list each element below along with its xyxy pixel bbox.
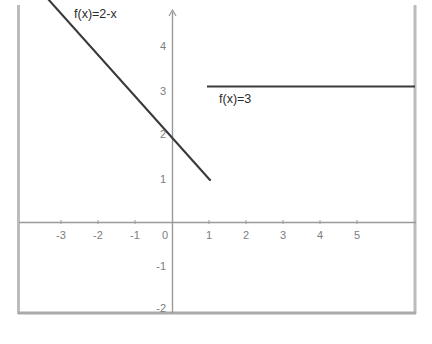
curve-f-of-x-2-minus-x [48,0,210,180]
x-tick-label-1: 1 [206,230,212,241]
x-tick-label-neg1: -1 [130,230,140,241]
x-tick-label-4: 4 [317,230,323,241]
x-tick-label-neg3: -3 [56,230,66,241]
plot-canvas [0,0,432,344]
x-tick-label-2: 2 [243,230,249,241]
x-tick-label-zero: 0 [162,230,168,241]
x-tick-label-3: 3 [280,230,286,241]
x-tick-label-neg2: -2 [93,230,103,241]
y-axis [169,10,176,313]
y-tick-label-neg2: -2 [156,303,166,314]
y-tick-label-1: 1 [160,174,166,185]
y-tick-label-neg1: -1 [156,261,166,272]
x-axis [19,220,416,224]
x-tick-label-5: 5 [354,230,360,241]
function-label-f-of-x-2-minus-x: f(x)=2-x [74,8,117,21]
function-label-f-of-x-3: f(x)=3 [219,93,251,106]
frame-border [18,5,416,314]
y-tick-label-2: 2 [160,129,166,140]
y-tick-label-3: 3 [160,86,166,97]
y-tick-label-4: 4 [160,41,166,52]
graph-figure: -3 -2 -1 0 1 2 3 4 5 4 3 2 1 -1 -2 f(x)=… [0,0,432,344]
